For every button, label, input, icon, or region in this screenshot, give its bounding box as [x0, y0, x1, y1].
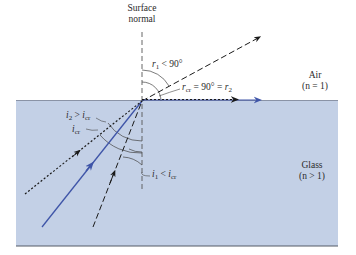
- air-name: Air: [290, 70, 340, 81]
- glass-index: (n > 1): [287, 171, 337, 182]
- surface-normal-label-line2: normal: [118, 14, 166, 25]
- glass-name: Glass: [287, 160, 337, 171]
- surface-normal-label-line1: Surface: [118, 3, 166, 14]
- refraction-diagram: Surface normal r1 < 90° rcr = 90° = r2 A…: [0, 0, 356, 255]
- surface-normal-label: Surface normal: [118, 3, 166, 25]
- air-index: (n = 1): [290, 81, 340, 92]
- angle-arc-r1: [142, 70, 169, 86]
- i1-angle-label: i1 < icr: [152, 169, 176, 180]
- air-label: Air (n = 1): [290, 70, 340, 92]
- r1-angle-label: r1 < 90°: [152, 59, 183, 70]
- diagram-canvas: [0, 0, 356, 255]
- icr-angle-label: icr: [72, 124, 80, 135]
- rcr-angle-label: rcr = 90° = r2: [182, 82, 232, 93]
- angle-arc-rcr: [142, 82, 161, 101]
- glass-label: Glass (n > 1): [287, 160, 337, 182]
- i2-angle-label: i2 > icr: [66, 110, 90, 121]
